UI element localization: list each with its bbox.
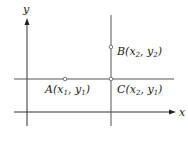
y-axis-arrow-icon	[25, 18, 30, 25]
point-b	[109, 45, 113, 49]
point-c-label: C(x2, y1)	[117, 83, 162, 97]
y-axis-label: y	[22, 3, 30, 16]
x-axis-label: x	[179, 106, 186, 119]
x-axis-arrow-icon	[169, 110, 176, 115]
point-b-label: B(x2, y2)	[116, 45, 162, 59]
point-a-label: A(x1, y1)	[44, 83, 90, 97]
point-c	[109, 77, 113, 81]
coordinate-diagram: y x A(x1, y1) B(x2, y2) C(x2, y1)	[0, 0, 188, 146]
point-a	[63, 77, 67, 81]
